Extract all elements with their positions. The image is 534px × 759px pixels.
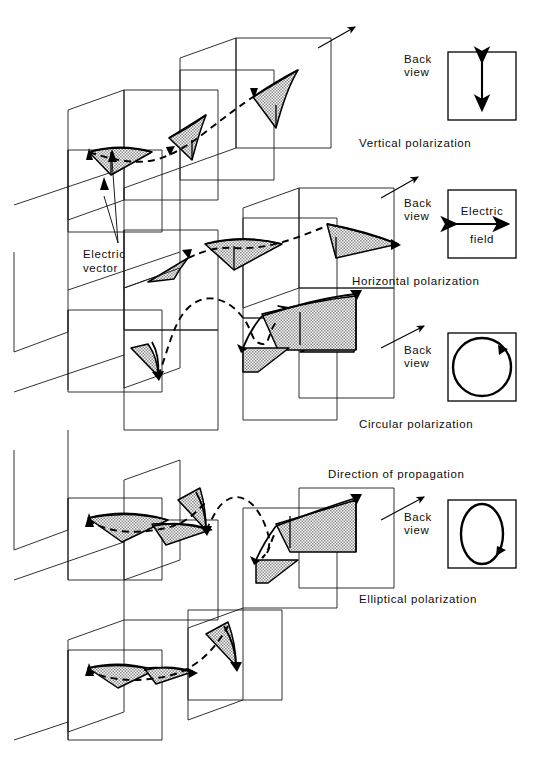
plane xyxy=(124,330,218,430)
vector-arrowhead xyxy=(188,668,198,678)
wave-lobes-circular xyxy=(131,294,356,376)
caption-elliptical-polarization: Elliptical polarization xyxy=(359,593,477,605)
plane xyxy=(14,430,68,550)
wave-dashed-path xyxy=(206,497,276,558)
back-view-label-line1: Back xyxy=(404,344,432,356)
wave-lobe xyxy=(148,258,188,282)
propagation-arrow xyxy=(318,27,355,48)
back-view-label-line2: view xyxy=(404,357,430,369)
vector-arrowhead xyxy=(166,146,175,156)
caption-circular-polarization: Circular polarization xyxy=(359,418,473,430)
wave-lobes-vertical xyxy=(89,70,298,175)
vector-arrowhead xyxy=(230,662,242,672)
wave-lobe xyxy=(131,344,158,376)
callout-arrowhead xyxy=(100,177,109,190)
plane xyxy=(68,498,162,580)
back-view-label-line1: Back xyxy=(404,53,432,65)
back-view-label-line2: view xyxy=(404,524,430,536)
electric-field-label-line1: Electric xyxy=(461,205,504,217)
axis-line xyxy=(14,355,124,392)
bottom-continuation-planes xyxy=(14,608,282,740)
electric-vector-label-line1: Electric xyxy=(83,248,126,260)
polarization-figure: Back view Vertical polarization xyxy=(0,0,534,759)
back-view-label-line1: Back xyxy=(404,197,432,209)
wave-lobe xyxy=(243,348,289,372)
wave-lobe xyxy=(262,296,356,350)
wave-lobe xyxy=(205,240,282,271)
axis-line xyxy=(14,542,124,580)
lobe-envelope xyxy=(256,526,276,560)
electric-field-label-line2: field xyxy=(470,233,494,245)
row-horizontal-polarization: Back view Electric field Horizontal pola… xyxy=(68,168,516,330)
back-view-label-line2: view xyxy=(404,210,430,222)
back-view-box xyxy=(448,500,516,568)
row-elliptical-polarization: Direction of propagation Back view Ellip… xyxy=(14,430,516,620)
caption-vertical-polarization: Vertical polarization xyxy=(359,137,471,149)
wave-lobe xyxy=(327,224,398,258)
back-view-box xyxy=(448,333,516,401)
back-view-label-line2: view xyxy=(404,66,430,78)
axis-line xyxy=(14,722,68,740)
plane xyxy=(14,232,68,352)
back-view-circle-icon xyxy=(453,338,511,396)
wave-lobe xyxy=(256,560,298,583)
caption-horizontal-polarization: Horizontal polarization xyxy=(352,275,480,287)
wave-lobes-elliptical xyxy=(88,488,356,583)
propagation-arrow xyxy=(381,177,418,198)
back-view-label-line1: Back xyxy=(404,511,432,523)
direction-of-propagation-label: Direction of propagation xyxy=(328,468,465,480)
vector-arrowhead xyxy=(391,239,401,250)
electric-vector-label-line2: vector xyxy=(83,262,118,274)
plane xyxy=(124,90,218,200)
row-vertical-polarization: Back view Vertical polarization xyxy=(14,27,516,232)
